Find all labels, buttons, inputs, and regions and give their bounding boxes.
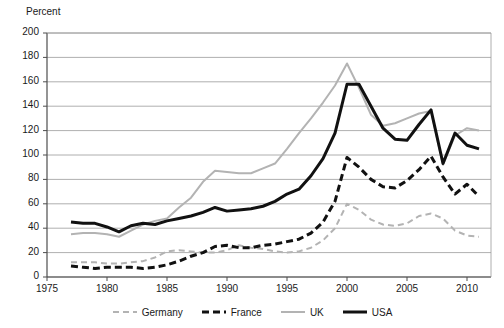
legend-label: Germany bbox=[142, 307, 183, 318]
y-tick-label-200: 200 bbox=[9, 26, 39, 37]
y-tick-label-140: 140 bbox=[9, 99, 39, 110]
y-tick-label-120: 120 bbox=[9, 124, 39, 135]
series-line-uk bbox=[71, 64, 479, 237]
y-tick-label-100: 100 bbox=[9, 148, 39, 159]
legend-item-germany[interactable]: Germany bbox=[112, 307, 183, 318]
x-tick-label-1985: 1985 bbox=[147, 283, 187, 294]
x-tick-label-1995: 1995 bbox=[267, 283, 307, 294]
series-line-france bbox=[71, 156, 479, 268]
legend-swatch-usa bbox=[342, 307, 368, 317]
y-tick-label-160: 160 bbox=[9, 75, 39, 86]
chart-container: Percent 200180160140120100806040200 1975… bbox=[0, 0, 504, 328]
y-tick-label-80: 80 bbox=[9, 172, 39, 183]
x-tick-label-1980: 1980 bbox=[87, 283, 127, 294]
x-tick-label-2010: 2010 bbox=[447, 283, 487, 294]
x-tick-label-1975: 1975 bbox=[27, 283, 67, 294]
legend-label: France bbox=[231, 307, 262, 318]
legend-item-usa[interactable]: USA bbox=[342, 307, 393, 318]
series-line-germany bbox=[71, 204, 479, 264]
chart-legend: GermanyFranceUKUSA bbox=[0, 300, 504, 324]
line-chart-plot bbox=[0, 0, 504, 328]
y-tick-label-20: 20 bbox=[9, 246, 39, 257]
y-tick-label-40: 40 bbox=[9, 221, 39, 232]
x-tick-label-2000: 2000 bbox=[327, 283, 367, 294]
x-tick-label-1990: 1990 bbox=[207, 283, 247, 294]
legend-label: USA bbox=[372, 307, 393, 318]
legend-swatch-uk bbox=[280, 307, 306, 317]
legend-label: UK bbox=[310, 307, 324, 318]
y-tick-label-60: 60 bbox=[9, 197, 39, 208]
x-tick-label-2005: 2005 bbox=[387, 283, 427, 294]
legend-swatch-germany bbox=[112, 307, 138, 317]
legend-item-uk[interactable]: UK bbox=[280, 307, 324, 318]
legend-swatch-france bbox=[201, 307, 227, 317]
y-tick-label-180: 180 bbox=[9, 50, 39, 61]
legend-item-france[interactable]: France bbox=[201, 307, 262, 318]
y-tick-label-0: 0 bbox=[9, 270, 39, 281]
